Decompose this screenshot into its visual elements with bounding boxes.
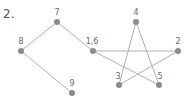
graph-edges: [21, 22, 178, 93]
edge-8-7: [21, 22, 57, 51]
node-8: [18, 48, 24, 54]
node-9: [69, 90, 75, 96]
node-2: [175, 48, 181, 54]
node-1,6: [90, 48, 96, 54]
node-label-2: 2: [175, 37, 180, 46]
node-7: [54, 19, 60, 25]
node-label-4: 4: [133, 8, 138, 17]
node-4: [133, 19, 139, 25]
edge-4-5: [136, 22, 159, 85]
graph-nodes: 871,694235: [18, 8, 181, 96]
node-label-7: 7: [54, 8, 59, 17]
edge-4-3: [119, 22, 136, 85]
node-label-5: 5: [157, 72, 162, 81]
node-label-8: 8: [18, 37, 23, 46]
edge-8-9: [21, 51, 72, 93]
graph-diagram: 871,694235: [0, 0, 189, 97]
node-label-9: 9: [69, 79, 74, 88]
node-5: [156, 82, 162, 88]
node-label-3: 3: [115, 72, 120, 81]
node-label-1,6: 1,6: [86, 37, 99, 46]
node-3: [116, 82, 122, 88]
